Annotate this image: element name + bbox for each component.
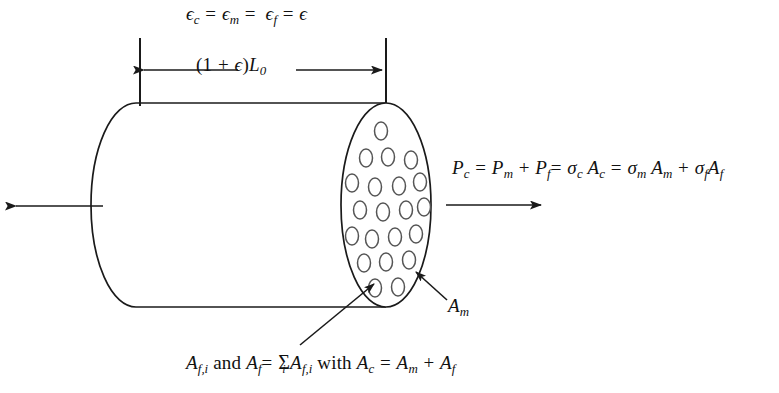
caption-A-m-subscript: m [408, 361, 417, 376]
caption-A-c: A [357, 352, 369, 373]
load-P-m: P [492, 157, 504, 178]
load-plus-1: + [519, 157, 530, 178]
caption-A-m: A [397, 352, 409, 373]
load-plus-2: + [678, 157, 689, 178]
caption-A-fi-subscript: f,i [198, 361, 208, 376]
load-sigma-c-subscript: c [577, 166, 583, 181]
load-A-f-subscript: f [720, 166, 724, 181]
load-P-c: P [452, 157, 464, 178]
load-A-c: A [588, 157, 600, 178]
matrix-A-symbol: A [448, 295, 460, 316]
load-P-c-subscript: c [464, 166, 470, 181]
caption-equals-1: = [262, 352, 273, 373]
caption-A-fi-summed: A [290, 352, 302, 373]
composite-cylinder-diagram [0, 0, 779, 393]
summation-operator: Σi [278, 352, 290, 372]
strain-equation: ϵc=ϵm=ϵf=ϵ [186, 4, 307, 27]
matrix-A-subscript: m [460, 304, 469, 319]
length-L-subscript: 0 [260, 63, 266, 78]
strain-equals-1: = [205, 3, 216, 24]
load-A-m: A [651, 157, 663, 178]
load-A-m-subscript: m [663, 166, 672, 181]
sigma-sum-index: i [282, 364, 285, 376]
load-P-m-subscript: m [504, 166, 513, 181]
matrix-leader-line [416, 272, 447, 300]
length-plus: + [218, 54, 229, 75]
fiber-area-caption: Af,iandAf=ΣiAf,iwithAc=Am+Af [186, 352, 455, 376]
load-A-f: A [708, 157, 720, 178]
length-dimension-label: (1+ϵ)L0 [196, 55, 266, 78]
strain-equals-3: = [283, 3, 294, 24]
caption-A-c-subscript: c [369, 361, 375, 376]
load-equals-2: = [551, 157, 562, 178]
matrix-area-label: Am [448, 296, 469, 319]
load-sigma-c: σ [567, 157, 577, 178]
strain-eps-m-subscript: m [230, 12, 239, 27]
strain-eps-symbol: ϵ [299, 3, 307, 24]
load-A-c-subscript: c [599, 166, 605, 181]
load-sigma-m-subscript: m [637, 166, 646, 181]
strain-eps-c-symbol: ϵ [186, 3, 194, 24]
load-equilibrium-equation: Pc=Pm+Pf=σcAc=σmAm+σfAf [452, 158, 723, 181]
caption-equals-2: = [380, 352, 391, 373]
caption-A-fi-summed-subscript: f,i [302, 361, 312, 376]
cylinder-left-cap [91, 103, 136, 307]
strain-eps-c-subscript: c [194, 12, 200, 27]
strain-eps-f-subscript: f [273, 12, 277, 27]
load-sigma-m: σ [627, 157, 637, 178]
caption-A-f-final-subscript: f [452, 361, 456, 376]
figure-root: ϵc=ϵm=ϵf=ϵ (1+ϵ)L0 Pc=Pm+Pf=σcAc=σmAm+σf… [0, 0, 779, 393]
length-L-symbol: L [249, 54, 260, 75]
strain-equals-2: = [245, 3, 256, 24]
caption-plus: + [423, 352, 434, 373]
fiber-leader-line [300, 284, 374, 345]
caption-A-f-final: A [440, 352, 452, 373]
load-P-f: P [535, 157, 547, 178]
caption-A-f: A [246, 352, 258, 373]
caption-A-fi: A [186, 352, 198, 373]
load-equals-1: = [475, 157, 486, 178]
strain-eps-m-symbol: ϵ [222, 3, 230, 24]
caption-with-word: with [317, 352, 352, 373]
length-one: 1 [203, 54, 213, 75]
load-equals-3: = [611, 157, 622, 178]
caption-and-word: and [213, 352, 241, 373]
load-sigma-f: σ [695, 157, 705, 178]
